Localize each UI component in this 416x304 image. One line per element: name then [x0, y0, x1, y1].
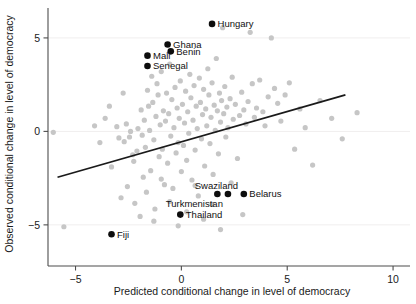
data-point: [283, 92, 288, 97]
data-point: [169, 97, 174, 102]
x-tick-label: 10: [387, 273, 399, 285]
data-point: [235, 156, 240, 161]
data-point: [194, 104, 199, 109]
point-label: Benin: [176, 46, 200, 57]
data-point: [329, 116, 334, 121]
data-point: [137, 214, 142, 219]
data-point: [224, 104, 229, 109]
data-point: [175, 105, 180, 110]
data-point: [161, 108, 166, 113]
data-point: [142, 118, 147, 123]
data-point: [171, 125, 176, 130]
data-point: [187, 72, 192, 77]
data-point: [266, 94, 271, 99]
point-label: Turkmenistan: [166, 198, 223, 209]
data-point: [127, 134, 132, 139]
x-axis-title: Predicted conditional change in level of…: [114, 285, 351, 297]
data-point: [162, 182, 167, 187]
data-point: [188, 95, 193, 100]
data-point: [180, 102, 185, 107]
data-point: [254, 105, 259, 110]
data-point: [157, 154, 162, 159]
data-point: [217, 90, 222, 95]
data-point: [237, 113, 242, 118]
data-point: [176, 223, 181, 228]
data-point: [212, 103, 217, 108]
data-point: [200, 112, 205, 117]
data-point: [168, 133, 173, 138]
data-point: [131, 159, 136, 164]
data-point: [252, 115, 257, 120]
data-point: [109, 164, 114, 169]
data-point: [211, 172, 216, 177]
data-point: [197, 76, 202, 81]
data-point: [92, 123, 97, 128]
point-label: Fiji: [117, 229, 129, 240]
data-point: [218, 119, 223, 124]
data-point: [207, 141, 212, 146]
data-point: [209, 80, 214, 85]
data-point: [193, 147, 198, 152]
data-point: [118, 195, 123, 200]
data-point: [122, 139, 127, 144]
data-point: [184, 158, 189, 163]
point-label: Hungary: [218, 18, 254, 29]
data-point: [303, 125, 308, 130]
data-point: [182, 120, 187, 125]
data-point: [269, 35, 274, 40]
point-label: Senegal: [153, 60, 188, 71]
data-point: [97, 140, 102, 145]
data-point: [134, 148, 139, 153]
data-point: [146, 104, 151, 109]
data-point: [116, 135, 121, 140]
labeled-data-point: [214, 191, 221, 198]
data-point: [204, 123, 209, 128]
data-point: [221, 111, 226, 116]
data-point: [206, 92, 211, 97]
data-point: [166, 111, 171, 116]
data-point: [223, 134, 228, 139]
data-point: [144, 190, 149, 195]
data-point: [214, 56, 219, 61]
data-point: [135, 126, 140, 131]
data-point: [147, 128, 152, 133]
y-tick-label: 0: [34, 125, 40, 137]
point-label: Thailand: [186, 209, 222, 220]
data-point: [287, 80, 292, 85]
labeled-data-point: [164, 41, 171, 48]
chart-canvas: HungaryGhanaBeninMaliSenegalSwazilandTur…: [0, 0, 416, 304]
data-point: [216, 151, 221, 156]
data-point: [202, 163, 207, 168]
data-point: [245, 99, 250, 104]
data-point: [185, 109, 190, 114]
point-label: Swaziland: [195, 180, 238, 191]
data-point: [141, 175, 146, 180]
data-point: [114, 124, 119, 129]
x-tick-label: 0: [178, 273, 184, 285]
data-point: [164, 90, 169, 95]
data-point: [152, 206, 157, 211]
data-point: [163, 119, 168, 124]
data-point: [191, 83, 196, 88]
labeled-data-point: [108, 231, 115, 238]
data-point: [177, 116, 182, 121]
data-point: [158, 122, 163, 127]
data-point: [140, 133, 145, 138]
data-point: [260, 109, 265, 114]
data-point: [201, 87, 206, 92]
data-point: [143, 145, 148, 150]
data-point: [178, 78, 183, 83]
data-point: [181, 143, 186, 148]
data-point: [231, 117, 236, 122]
data-point: [139, 107, 144, 112]
point-label: Belarus: [249, 188, 281, 199]
data-point: [205, 66, 210, 71]
x-tick-label: 5: [284, 273, 290, 285]
data-point: [150, 100, 155, 105]
data-point: [103, 116, 108, 121]
data-point: [183, 89, 188, 94]
data-point: [154, 81, 159, 86]
data-point: [230, 75, 235, 80]
data-point: [227, 96, 232, 101]
data-point: [128, 129, 133, 134]
